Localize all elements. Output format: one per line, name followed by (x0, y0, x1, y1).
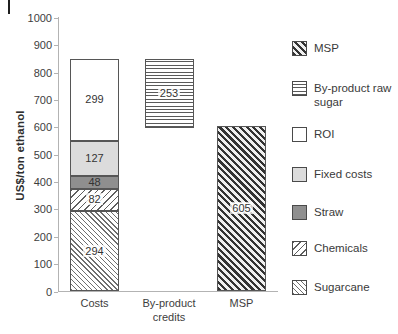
segment-value-label: 48 (70, 175, 119, 190)
legend-swatch (292, 241, 307, 256)
y-tick-mark (54, 18, 58, 19)
legend-label: Fixed costs (314, 167, 396, 181)
segment-value-label: 299 (70, 92, 119, 107)
segment-value-label: 253 (145, 86, 194, 101)
y-tick-label: 200 (10, 230, 52, 244)
y-tick-label: 1000 (10, 11, 52, 25)
y-tick-label: 400 (10, 175, 52, 189)
y-tick-mark (54, 100, 58, 101)
legend-swatch (292, 127, 307, 142)
legend-swatch (292, 41, 307, 56)
legend-label: Sugarcane (314, 280, 396, 294)
y-tick-label: 300 (10, 202, 52, 216)
x-category-label: Costs (53, 296, 137, 310)
y-tick-label: 900 (10, 38, 52, 52)
x-category-label: By-product credits (127, 296, 211, 324)
y-tick-mark (54, 209, 58, 210)
legend-label: ROI (314, 127, 396, 141)
stacked-bar-chart-figure: US$/ton ethanol 010020030040050060070080… (0, 0, 398, 334)
y-tick-label: 700 (10, 93, 52, 107)
legend-label: Straw (314, 205, 396, 219)
y-tick-label: 800 (10, 66, 52, 80)
legend-swatch (292, 205, 307, 220)
legend-label: MSP (314, 41, 396, 55)
segment-value-label: 605 (217, 201, 266, 216)
legend-label: Chemicals (314, 241, 396, 255)
y-tick-mark (54, 155, 58, 156)
y-tick-mark (54, 237, 58, 238)
x-category-label: MSP (200, 296, 284, 310)
y-tick-label: 600 (10, 120, 52, 134)
y-tick-mark (54, 264, 58, 265)
y-axis-line (58, 17, 59, 292)
legend-swatch (292, 280, 307, 295)
y-tick-mark (54, 182, 58, 183)
y-tick-mark (54, 292, 58, 293)
y-tick-label: 500 (10, 148, 52, 162)
segment-value-label: 294 (70, 244, 119, 259)
y-tick-mark (54, 73, 58, 74)
legend-swatch (292, 81, 307, 96)
y-tick-mark (54, 127, 58, 128)
y-tick-label: 100 (10, 257, 52, 271)
y-tick-mark (54, 45, 58, 46)
legend-label: By-product raw sugar (314, 81, 396, 109)
legend-swatch (292, 167, 307, 182)
segment-value-label: 127 (70, 151, 119, 166)
y-tick-label: 0 (10, 285, 52, 299)
segment-value-label: 82 (70, 192, 119, 207)
